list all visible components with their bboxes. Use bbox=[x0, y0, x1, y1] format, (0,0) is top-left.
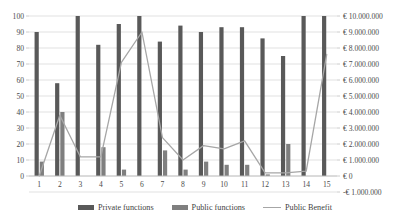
category-label: 10 bbox=[220, 180, 228, 189]
bar-private-functions bbox=[302, 16, 306, 176]
category-label: 14 bbox=[302, 180, 310, 189]
right-axis-tick-label: € 5.000.000 bbox=[343, 92, 379, 101]
left-axis-tick-label: 100 bbox=[13, 12, 25, 21]
legend-swatch-icon bbox=[172, 205, 188, 210]
bar-public-functions bbox=[225, 165, 229, 176]
left-axis-tick-label: 90 bbox=[16, 28, 24, 37]
legend-item-public-functions: Public functions bbox=[172, 203, 245, 212]
category-label: 12 bbox=[261, 180, 269, 189]
gridlines bbox=[29, 16, 337, 192]
left-axis-tick-label: 30 bbox=[16, 124, 24, 133]
category-label: 3 bbox=[78, 180, 82, 189]
legend-item-private-functions: Private functions bbox=[78, 203, 154, 212]
legend-item-public-benefit: Public Benefit bbox=[263, 203, 332, 212]
left-axis-tick-label: 10 bbox=[16, 156, 24, 165]
left-axis-tick-labels: 0102030405060708090100 bbox=[13, 12, 29, 181]
category-label: 8 bbox=[181, 180, 185, 189]
category-label: 9 bbox=[202, 180, 206, 189]
bar-private-functions bbox=[260, 38, 264, 176]
right-axis-tick-label: € 2.000.000 bbox=[343, 140, 379, 149]
bar-private-functions bbox=[219, 27, 223, 176]
left-axis-tick-label: 50 bbox=[16, 92, 24, 101]
left-axis-tick-label: 20 bbox=[16, 140, 24, 149]
left-axis-tick-label: 80 bbox=[16, 44, 24, 53]
category-label: 13 bbox=[282, 180, 290, 189]
bar-public-functions bbox=[163, 150, 167, 176]
bar-private-functions bbox=[199, 32, 203, 176]
left-axis-tick-label: 40 bbox=[16, 108, 24, 117]
category-label: 7 bbox=[161, 180, 165, 189]
bar-private-functions bbox=[117, 24, 121, 176]
category-label: 1 bbox=[37, 180, 41, 189]
right-axis-tick-label: € 8.000.000 bbox=[343, 44, 379, 53]
bar-public-functions bbox=[204, 162, 208, 176]
right-axis-tick-label: € 6.000.000 bbox=[343, 76, 379, 85]
bar-private-functions bbox=[178, 26, 182, 176]
right-axis-tick-label: € 9.000.000 bbox=[343, 28, 379, 37]
legend-item-label: Public functions bbox=[192, 203, 245, 212]
legend-item-label: Public Benefit bbox=[285, 203, 332, 212]
category-axis-labels: 123456789101112131415 bbox=[37, 180, 330, 189]
legend-line-icon bbox=[263, 207, 281, 208]
bar-private-functions bbox=[158, 42, 162, 176]
category-label: 2 bbox=[58, 180, 62, 189]
chart-container: 0102030405060708090100 -€ 1.000.000€ 0€ … bbox=[0, 0, 410, 223]
category-label: 4 bbox=[99, 180, 103, 189]
chart-legend: Private functions Public functions Publi… bbox=[0, 198, 410, 216]
category-label: 5 bbox=[120, 180, 124, 189]
right-axis-tick-label: -€ 1.000.000 bbox=[343, 188, 382, 196]
bar-private-functions bbox=[35, 32, 39, 176]
chart-svg: 0102030405060708090100 -€ 1.000.000€ 0€ … bbox=[0, 0, 410, 196]
category-label: 11 bbox=[241, 180, 249, 189]
plot-area: 0102030405060708090100 -€ 1.000.000€ 0€ … bbox=[0, 0, 410, 196]
category-label: 6 bbox=[140, 180, 144, 189]
left-axis-tick-label: 0 bbox=[20, 172, 24, 181]
bar-public-functions bbox=[184, 170, 188, 176]
bar-public-functions bbox=[286, 144, 290, 176]
bar-public-functions bbox=[122, 170, 126, 176]
right-axis-tick-label: € 10.000.000 bbox=[343, 12, 383, 21]
right-axis-tick-labels: -€ 1.000.000€ 0€ 1.000.000€ 2.000.000€ 3… bbox=[337, 12, 383, 196]
bar-private-functions bbox=[240, 27, 244, 176]
bar-private-functions bbox=[55, 83, 59, 176]
right-axis-tick-label: € 7.000.000 bbox=[343, 60, 379, 69]
bar-private-functions bbox=[137, 16, 141, 176]
bar-private-functions bbox=[281, 56, 285, 176]
right-axis-tick-label: € 1.000.000 bbox=[343, 156, 379, 165]
left-axis-tick-label: 70 bbox=[16, 60, 24, 69]
category-label: 15 bbox=[323, 180, 331, 189]
legend-swatch-icon bbox=[78, 205, 94, 210]
right-axis-tick-label: € 3.000.000 bbox=[343, 124, 379, 133]
bar-public-functions bbox=[245, 165, 249, 176]
left-axis-tick-label: 60 bbox=[16, 76, 24, 85]
bar-private-functions bbox=[322, 16, 326, 176]
right-axis-tick-label: € 4.000.000 bbox=[343, 108, 379, 117]
right-axis-tick-label: € 0 bbox=[343, 172, 353, 181]
legend-item-label: Private functions bbox=[98, 203, 154, 212]
